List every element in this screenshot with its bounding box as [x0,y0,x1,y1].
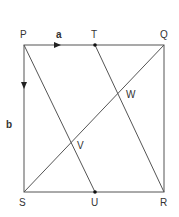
label-p: P [20,29,27,40]
label-t: T [91,29,97,40]
label-w: W [126,89,136,100]
label-vector-b: b [6,119,12,130]
diagram-canvas: P a T Q b W V S U R [0,0,179,217]
label-s: S [19,197,26,208]
segment-pu [24,45,95,192]
label-u: U [91,197,98,208]
segment-tr [95,45,164,192]
label-vector-a: a [56,29,62,40]
label-q: Q [160,29,168,40]
segment-sq [24,45,164,192]
point-t-dot [93,43,97,47]
vector-a-arrow-icon [54,42,61,48]
vector-b-arrow-icon [21,82,27,89]
point-u-dot [93,190,97,194]
label-r: R [160,197,167,208]
label-v: V [77,140,84,151]
